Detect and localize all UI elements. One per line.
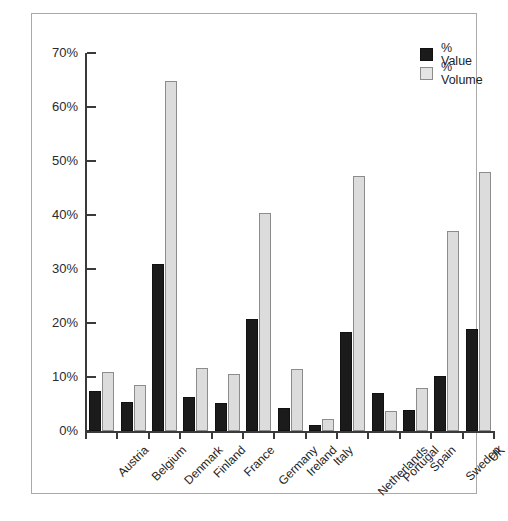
y-axis-tick (87, 268, 96, 270)
x-axis-tick (211, 433, 213, 439)
x-axis-tick (367, 433, 369, 439)
plot-area (85, 53, 493, 431)
bar-france-volume (228, 374, 240, 431)
y-axis-tick (87, 52, 96, 54)
bar-sweden-volume (447, 231, 459, 431)
y-axis-tick (87, 214, 96, 216)
bar-austria-volume (102, 372, 114, 431)
y-axis-tick (87, 160, 96, 162)
bar-italy-volume (322, 419, 334, 431)
bar-spain-value (403, 410, 415, 431)
bar-denmark-volume (165, 81, 177, 431)
bar-austria-value (89, 391, 101, 431)
legend-swatch-volume-icon (420, 67, 433, 80)
y-axis-tick-label: 20% (34, 316, 78, 329)
y-axis-tick-label: 40% (34, 208, 78, 221)
x-axis-label-austria: Austria (115, 443, 151, 479)
bar-germany-value (246, 319, 258, 431)
x-axis-tick (399, 433, 401, 439)
bar-italy-value (309, 425, 321, 431)
x-axis-line (85, 431, 495, 433)
x-axis-tick (273, 433, 275, 439)
x-axis-tick (179, 433, 181, 439)
y-axis-tick (87, 322, 96, 324)
y-axis-tick (87, 376, 96, 378)
bar-sweden-value (434, 376, 446, 431)
y-axis-tick-label: 30% (34, 262, 78, 275)
legend-label: % Volume (441, 61, 483, 87)
x-axis-tick (305, 433, 307, 439)
bar-ireland-volume (291, 369, 303, 431)
bar-netherlands-value (340, 332, 352, 431)
x-axis-label-france: France (241, 443, 277, 479)
x-axis-tick (462, 433, 464, 439)
y-axis-tick-label: 60% (34, 100, 78, 113)
y-axis-tick-label: 70% (34, 46, 78, 59)
bar-portugal-value (372, 393, 384, 431)
x-axis-tick (116, 433, 118, 439)
bar-spain-volume (416, 388, 428, 431)
bar-uk-value (466, 329, 478, 431)
bar-ireland-value (278, 408, 290, 431)
bar-netherlands-volume (353, 176, 365, 431)
bar-belgium-volume (134, 385, 146, 431)
bar-belgium-value (121, 402, 133, 431)
legend-swatch-value-icon (420, 48, 433, 61)
x-axis-tick (85, 433, 87, 439)
x-axis-tick (493, 433, 495, 439)
x-axis-tick (242, 433, 244, 439)
chart-legend: % Value% Volume (420, 45, 483, 83)
x-axis-tick (148, 433, 150, 439)
chart-frame: 0%10%20%30%40%50%60%70% AustriaBelgiumDe… (31, 13, 477, 494)
y-axis-tick-label: 0% (34, 424, 78, 437)
legend-item-volume: % Volume (420, 64, 483, 83)
y-axis-tick (87, 106, 96, 108)
bar-germany-volume (259, 213, 271, 431)
bar-uk-volume (479, 172, 491, 431)
x-axis-tick (336, 433, 338, 439)
bar-france-value (215, 403, 227, 431)
bar-finland-volume (196, 368, 208, 431)
y-axis-tick-label: 10% (34, 370, 78, 383)
bar-portugal-volume (385, 411, 397, 431)
bar-finland-value (183, 397, 195, 431)
y-axis-tick-label: 50% (34, 154, 78, 167)
bar-denmark-value (152, 264, 164, 431)
x-axis-tick (430, 433, 432, 439)
